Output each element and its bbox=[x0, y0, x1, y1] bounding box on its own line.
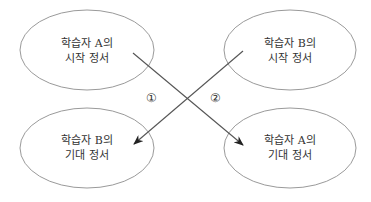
node-learner-b-start: 학습자 B의 시작 정서 bbox=[224, 10, 356, 90]
ellipse-shape bbox=[20, 108, 154, 188]
edge-label-1: ① bbox=[146, 91, 157, 105]
node-label-line1: 학습자 A의 bbox=[61, 37, 112, 50]
node-learner-a-expected: 학습자 A의 기대 정서 bbox=[224, 108, 356, 188]
node-label-line2: 기대 정서 bbox=[268, 149, 312, 162]
ellipse-shape bbox=[20, 10, 154, 90]
node-label-line1: 학습자 B의 bbox=[61, 134, 113, 147]
node-learner-b-expected: 학습자 B의 기대 정서 bbox=[20, 108, 154, 188]
ellipse-shape bbox=[224, 10, 356, 90]
emotion-diagram: 학습자 A의 시작 정서 학습자 B의 시작 정서 학습자 B의 기대 정서 학… bbox=[0, 0, 371, 202]
node-label-line2: 시작 정서 bbox=[65, 52, 109, 65]
node-label-line1: 학습자 A의 bbox=[264, 134, 315, 147]
edge-label-2: ② bbox=[210, 91, 221, 105]
node-label-line1: 학습자 B의 bbox=[264, 37, 316, 50]
node-label-line2: 기대 정서 bbox=[65, 149, 109, 162]
node-learner-a-start: 학습자 A의 시작 정서 bbox=[20, 10, 154, 90]
node-label-line2: 시작 정서 bbox=[268, 52, 312, 65]
ellipse-shape bbox=[224, 108, 356, 188]
